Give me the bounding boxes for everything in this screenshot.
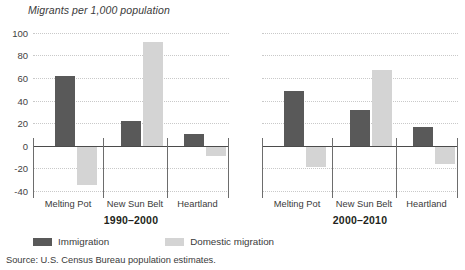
bar-immigration-new-sun-belt bbox=[350, 110, 370, 146]
gridline-100 bbox=[262, 33, 458, 34]
category-label-heartland: Heartland bbox=[396, 200, 457, 209]
ytick-neg20: -20 bbox=[2, 164, 28, 174]
bar-domestic-new-sun-belt bbox=[143, 42, 163, 146]
gridline-80 bbox=[262, 55, 458, 56]
category-label-melting-pot: Melting Pot bbox=[33, 200, 103, 209]
bar-domestic-melting-pot bbox=[77, 146, 97, 185]
group-separator-left bbox=[262, 138, 263, 198]
ytick-neg40: -40 bbox=[2, 187, 28, 197]
group-separator-left bbox=[33, 138, 34, 198]
chart-panel-2000-2010: Melting Pot New Sun Belt Heartland bbox=[262, 33, 458, 191]
bar-immigration-heartland bbox=[413, 127, 433, 146]
legend-label-domestic-migration: Domestic migration bbox=[190, 236, 274, 247]
zero-baseline bbox=[262, 146, 458, 147]
legend-swatch-domestic-migration bbox=[165, 238, 184, 246]
gridline-neg20 bbox=[33, 168, 229, 169]
gridline-100 bbox=[33, 33, 229, 34]
bar-domestic-heartland bbox=[206, 146, 226, 156]
gridline-neg20 bbox=[262, 168, 458, 169]
chart-legend: Immigration Domestic migration bbox=[33, 236, 274, 247]
bar-domestic-new-sun-belt bbox=[372, 70, 392, 146]
group-separator-2 bbox=[396, 138, 397, 198]
ytick-20: 20 bbox=[2, 119, 28, 129]
category-label-new-sun-belt: New Sun Belt bbox=[332, 200, 396, 209]
bar-domestic-melting-pot bbox=[306, 146, 326, 167]
bar-immigration-new-sun-belt bbox=[121, 121, 141, 146]
gridline-60 bbox=[262, 78, 458, 79]
ytick-100: 100 bbox=[2, 29, 28, 39]
legend-item-domestic-migration: Domestic migration bbox=[165, 236, 274, 247]
legend-label-immigration: Immigration bbox=[58, 236, 109, 247]
category-label-new-sun-belt: New Sun Belt bbox=[103, 200, 167, 209]
bar-immigration-melting-pot bbox=[284, 91, 304, 146]
ytick-0: 0 bbox=[2, 142, 28, 152]
chart-axis-title: Migrants per 1,000 population bbox=[28, 4, 170, 16]
group-separator-right bbox=[457, 138, 458, 198]
bar-domestic-heartland bbox=[435, 146, 455, 164]
group-separator-2 bbox=[167, 138, 168, 198]
legend-swatch-immigration bbox=[33, 238, 52, 246]
group-separator-right bbox=[228, 138, 229, 198]
ytick-60: 60 bbox=[2, 74, 28, 84]
gridline-neg40 bbox=[262, 191, 458, 192]
category-label-heartland: Heartland bbox=[167, 200, 228, 209]
source-note: Source: U.S. Census Bureau population es… bbox=[6, 255, 216, 265]
panel-caption-2000-2010: 2000–2010 bbox=[262, 214, 458, 226]
group-separator-1 bbox=[332, 138, 333, 198]
ytick-40: 40 bbox=[2, 97, 28, 107]
bar-immigration-heartland bbox=[184, 134, 204, 146]
panel-caption-1990-2000: 1990–2000 bbox=[33, 214, 229, 226]
bar-immigration-melting-pot bbox=[55, 76, 75, 146]
group-separator-1 bbox=[103, 138, 104, 198]
gridline-80 bbox=[33, 55, 229, 56]
zero-baseline bbox=[33, 146, 229, 147]
legend-item-immigration: Immigration bbox=[33, 236, 109, 247]
category-label-melting-pot: Melting Pot bbox=[262, 200, 332, 209]
gridline-neg40 bbox=[33, 191, 229, 192]
ytick-80: 80 bbox=[2, 51, 28, 61]
chart-panel-1990-2000: 100 80 60 40 20 0 -20 -40 Melting Pot Ne… bbox=[33, 33, 229, 191]
